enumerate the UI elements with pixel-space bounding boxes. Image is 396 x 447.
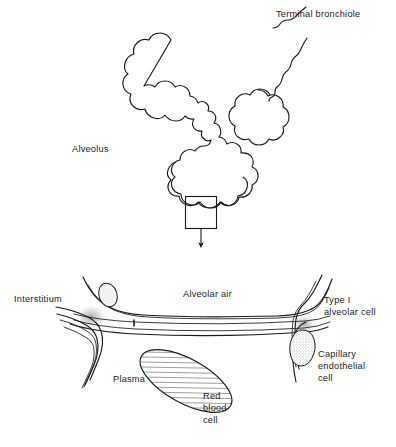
label-terminal-bronchiole: Terminal bronchiole xyxy=(276,9,360,19)
label-alveolus: Alveolus xyxy=(72,144,109,154)
capillary-endothelium-line xyxy=(70,324,328,336)
alveolar-cluster-group xyxy=(123,7,307,208)
type-i-alveolar-cell-nucleus xyxy=(96,281,121,309)
label-alveolar-air: Alveolar air xyxy=(183,289,232,299)
label-capillary-endothelial-cell-line1: Capillary xyxy=(318,349,356,359)
interstitial-fibre-4 xyxy=(64,327,94,388)
label-red-blood-cell-line3: cell xyxy=(203,415,218,425)
alveolus-cluster-outline xyxy=(123,33,258,208)
alveolus-diagram: Terminal bronchiole Alveolus xyxy=(0,0,396,447)
terminal-bronchiole-branch xyxy=(269,38,307,101)
magnification-box xyxy=(186,197,217,229)
figure-root: Terminal bronchiole Alveolus xyxy=(0,0,396,447)
label-capillary-endothelial-cell-line2: endothelial xyxy=(318,361,365,371)
label-red-blood-cell-line2: blood xyxy=(203,403,227,413)
label-red-blood-cell-line1: Red xyxy=(203,391,221,401)
alveolus-bottom-lobule-outline xyxy=(167,162,247,208)
label-type-i-alveolar-cell-line2: alveolar cell xyxy=(324,307,376,317)
alveolus-right-lobule-outline xyxy=(229,89,289,145)
label-plasma: Plasma xyxy=(113,374,146,384)
label-type-i-alveolar-cell-line1: Type I xyxy=(324,295,351,305)
label-capillary-endothelial-cell-line3: cell xyxy=(318,373,333,383)
capillary-endothelial-cell-nucleus xyxy=(290,330,315,366)
label-interstitium: Interstitium xyxy=(14,294,62,304)
